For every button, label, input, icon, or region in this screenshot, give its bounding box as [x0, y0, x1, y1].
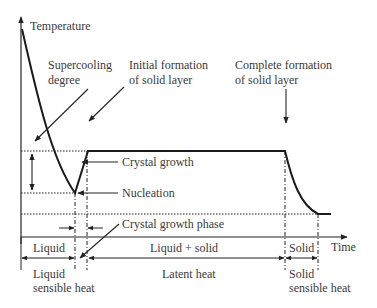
nucleation-label: Nucleation	[122, 186, 175, 200]
crystal-growth-phase-label: Crystal growth phase	[122, 217, 224, 231]
phase-liquid-solid-label: Liquid + solid	[150, 241, 218, 255]
cooling-curve	[22, 29, 331, 214]
complete-formation-label-line2: of solid layer	[235, 73, 298, 87]
phase-liquid-label: Liquid	[33, 241, 65, 255]
initial-formation-pointer-arrow	[89, 87, 124, 121]
liquid-sensible-heat-line2: sensible heat	[33, 281, 95, 295]
supercooling-label-line1: Supercooling	[48, 58, 112, 72]
supercooling-label-line2: degree	[48, 73, 80, 87]
liquid-sensible-heat-line1: Liquid	[33, 267, 65, 281]
y-axis-label: Temperature	[30, 19, 90, 33]
initial-formation-label-line1: Initial formation	[129, 58, 208, 72]
phase-solid-label: Solid	[289, 241, 314, 255]
complete-formation-label-line1: Complete formation	[235, 58, 332, 72]
solid-sensible-heat-line1: Solid	[289, 267, 314, 281]
initial-formation-label-line2: of solid layer	[129, 73, 192, 87]
crystal-growth-label: Crystal growth	[122, 155, 194, 169]
solid-sensible-heat-line2: sensible heat	[289, 281, 351, 295]
cooling-curve-diagram	[0, 0, 377, 308]
latent-heat-label: Latent heat	[162, 267, 216, 281]
x-axis-label: Time	[331, 240, 356, 254]
crystal-growth-phase-pointer-arrow	[80, 224, 119, 258]
